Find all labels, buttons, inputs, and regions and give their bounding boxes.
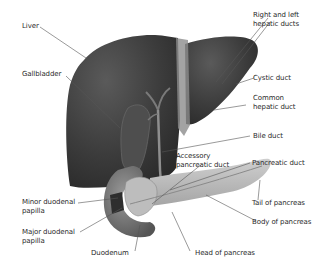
label-body-of-pancreas: Body of pancreas xyxy=(252,218,311,227)
label-major-duodenal-papilla: Major duodenal papilla xyxy=(22,228,75,245)
pancreas-head xyxy=(125,177,157,216)
label-common-hepatic-duct: Common hepatic duct xyxy=(253,94,296,111)
label-pancreatic-duct: Pancreatic duct xyxy=(252,159,305,168)
label-hepatic-ducts: Right and left hepatic ducts xyxy=(253,11,299,28)
label-liver: Liver xyxy=(22,22,39,31)
label-minor-duodenal-papilla: Minor duodenal papilla xyxy=(22,198,75,215)
label-duodenum: Duodenum xyxy=(91,249,129,258)
label-tail-of-pancreas: Tail of pancreas xyxy=(252,199,305,208)
falciform-ligament xyxy=(176,38,190,136)
label-gallbladder: Gallbladder xyxy=(22,70,61,79)
label-head-of-pancreas: Head of pancreas xyxy=(195,249,255,258)
label-bile-duct: Bile duct xyxy=(253,132,283,141)
label-accessory-pancreatic-duct: Accessory pancreatic duct xyxy=(176,152,229,169)
label-cystic-duct: Cystic duct xyxy=(253,74,291,83)
